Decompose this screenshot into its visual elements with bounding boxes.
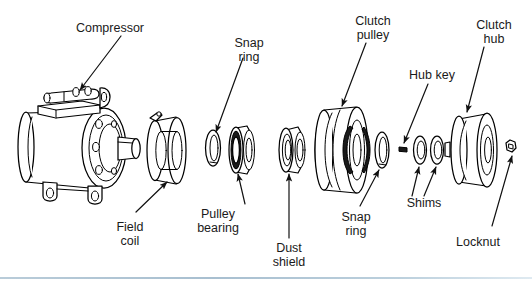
label-snap-ring-lower-line1: Snap <box>341 210 370 224</box>
label-snap-ring-lower-line2: ring <box>346 224 367 238</box>
label-snap-ring-upper-line1: Snap <box>234 36 263 50</box>
label-clutch-pulley-line1: Clutch <box>355 14 390 28</box>
part-compressor <box>18 87 140 204</box>
label-shims: Shims <box>407 196 442 210</box>
part-hub-key <box>399 147 407 152</box>
part-snap-ring-upper <box>206 130 221 166</box>
part-clutch-pulley <box>315 107 370 193</box>
part-shims <box>414 136 444 164</box>
part-pulley-bearing <box>229 126 255 174</box>
bottom-divider <box>0 277 532 279</box>
label-pulley-bearing-line2: bearing <box>197 221 239 235</box>
label-hub-key: Hub key <box>409 68 456 82</box>
exploded-view-diagram: Compressor Snap ring Clutch pulley Hub k… <box>0 0 532 294</box>
label-dust-shield-line2: shield <box>273 255 306 269</box>
part-snap-ring-lower <box>375 132 389 168</box>
label-clutch-hub-line2: hub <box>484 32 505 46</box>
part-dust-shield <box>279 127 305 173</box>
label-clutch-pulley-line2: pulley <box>357 28 390 42</box>
diagram-canvas: Compressor Snap ring Clutch pulley Hub k… <box>0 0 532 294</box>
part-clutch-hub <box>445 113 497 187</box>
part-locknut <box>506 140 516 152</box>
label-compressor: Compressor <box>76 21 144 35</box>
label-locknut: Locknut <box>456 235 500 249</box>
label-dust-shield-line1: Dust <box>276 241 302 255</box>
part-field-coil <box>147 112 186 184</box>
label-field-coil-line2: coil <box>121 234 140 248</box>
label-pulley-bearing-line1: Pulley <box>201 207 236 221</box>
label-snap-ring-upper-line2: ring <box>239 50 260 64</box>
label-clutch-hub-line1: Clutch <box>476 18 511 32</box>
label-field-coil-line1: Field <box>116 220 143 234</box>
